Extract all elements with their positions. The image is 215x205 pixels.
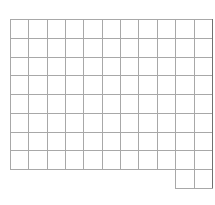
grid-cell: [47, 57, 66, 76]
grid-cell: [138, 113, 158, 133]
grid-cell: [120, 150, 139, 170]
grid-cell: [10, 94, 29, 114]
grid-cell: [175, 19, 195, 39]
grid-cell: [138, 150, 158, 170]
grid-cell: [102, 94, 121, 114]
grid-cell: [83, 94, 103, 114]
grid-cell: [194, 113, 213, 133]
grid-cell: [65, 38, 84, 58]
grid-cell: [138, 75, 158, 95]
grid-cell: [157, 19, 176, 39]
grid-cell: [138, 132, 158, 151]
grid-cell: [175, 57, 195, 76]
grid-cell: [65, 94, 84, 114]
grid-cell: [47, 75, 66, 95]
grid-cell: [120, 113, 139, 133]
grid-cell: [47, 132, 66, 151]
grid-cell: [120, 57, 139, 76]
grid-cell: [157, 38, 176, 58]
grid-cell: [83, 57, 103, 76]
grid-cell: [120, 94, 139, 114]
grid-cell: [102, 75, 121, 95]
grid-cell: [47, 38, 66, 58]
grid-cell: [157, 113, 176, 133]
grid-cell: [83, 150, 103, 170]
grid-cell: [120, 132, 139, 151]
grid-cell: [65, 75, 84, 95]
grid-cell: [175, 38, 195, 58]
grid-cell: [175, 169, 195, 189]
grid-cell: [47, 19, 66, 39]
grid-cell: [47, 94, 66, 114]
grid-cell: [157, 94, 176, 114]
grid-cell: [120, 75, 139, 95]
grid-cell: [138, 94, 158, 114]
grid-cell: [194, 57, 213, 76]
grid-cell: [65, 19, 84, 39]
grid-cell: [194, 19, 213, 39]
grid-cell: [83, 132, 103, 151]
grid-cell: [10, 150, 29, 170]
grid-cell: [102, 150, 121, 170]
grid-cell: [83, 19, 103, 39]
grid-cell: [10, 19, 29, 39]
grid-cell: [175, 113, 195, 133]
grid-cell: [157, 150, 176, 170]
grid-cell: [120, 19, 139, 39]
grid-cell: [83, 113, 103, 133]
grid-cell: [28, 19, 48, 39]
grid-cell: [102, 19, 121, 39]
grid-cell: [194, 150, 213, 170]
grid-cell: [138, 19, 158, 39]
grid-cell: [175, 75, 195, 95]
grid-cell: [83, 38, 103, 58]
grid-cell: [65, 132, 84, 151]
grid-cell: [102, 113, 121, 133]
grid-cell: [138, 38, 158, 58]
grid-cell: [120, 38, 139, 58]
grid-cell: [28, 57, 48, 76]
grid-cell: [194, 38, 213, 58]
grid-cell: [194, 169, 213, 189]
grid-cell: [194, 132, 213, 151]
grid-cell: [65, 113, 84, 133]
grid-cell: [175, 132, 195, 151]
grid-cell: [83, 75, 103, 95]
grid-cell: [10, 75, 29, 95]
grid-right-edge: [212, 19, 213, 188]
grid-cell: [102, 132, 121, 151]
grid-cell: [10, 132, 29, 151]
grid-cell: [102, 57, 121, 76]
grid-cell: [194, 75, 213, 95]
grid-cell: [28, 94, 48, 114]
grid-cell: [157, 75, 176, 95]
grid-cell: [175, 150, 195, 170]
grid-cell: [10, 38, 29, 58]
grid-cell: [175, 94, 195, 114]
grid-cell: [102, 38, 121, 58]
grid-cell: [10, 57, 29, 76]
grid-cell: [10, 113, 29, 133]
grid-cell: [28, 132, 48, 151]
grid-cell: [47, 150, 66, 170]
grid-cell: [28, 38, 48, 58]
grid-cell: [28, 75, 48, 95]
grid-cell: [28, 150, 48, 170]
grid-cell: [194, 94, 213, 114]
grid-cell: [65, 57, 84, 76]
grid-cell: [157, 132, 176, 151]
grid-cell: [28, 113, 48, 133]
grid-cell: [47, 113, 66, 133]
grid: [0, 0, 215, 205]
grid-cell: [65, 150, 84, 170]
grid-cell: [138, 57, 158, 76]
grid-cell: [157, 57, 176, 76]
